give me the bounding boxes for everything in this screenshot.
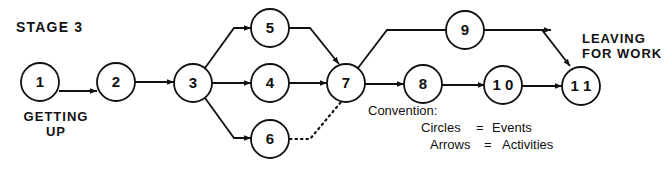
- node-10-label: 1 0: [493, 76, 514, 93]
- edge-6-7-dummy: [290, 102, 341, 139]
- node-5: 5: [251, 9, 289, 47]
- node-4-label: 4: [266, 74, 275, 91]
- node-4: 4: [251, 64, 289, 102]
- end-label-line2: FOR WORK: [582, 46, 662, 61]
- node-11: 1 1: [562, 67, 600, 105]
- convention-row-circles-right: Events: [492, 120, 532, 135]
- node-3: 3: [174, 64, 212, 102]
- node-1-label: 1: [36, 73, 44, 90]
- node-8-label: 8: [419, 75, 427, 92]
- edge-3-6: [205, 98, 251, 138]
- start-label-line2: UP: [46, 124, 66, 139]
- convention-row-circles-eq: =: [476, 120, 484, 135]
- node-10: 1 0: [484, 66, 522, 104]
- edge-9-11: [484, 30, 570, 66]
- stage-title: STAGE 3: [16, 19, 83, 35]
- convention-row-arrows-right: Activities: [502, 137, 554, 152]
- node-6: 6: [251, 120, 289, 158]
- network-diagram: STAGE 3 1 2 3: [0, 0, 668, 169]
- edge-5-7: [289, 28, 339, 64]
- node-2: 2: [97, 63, 135, 101]
- start-label-line1: GETTING: [24, 109, 89, 124]
- edge-3-5: [205, 28, 251, 68]
- node-7: 7: [327, 64, 365, 102]
- convention-row-arrows-left: Arrows: [430, 137, 471, 152]
- node-3-label: 3: [189, 74, 197, 91]
- convention-row-arrows-eq: =: [484, 137, 492, 152]
- convention-heading: Convention:: [368, 103, 437, 118]
- convention-legend: Convention: Circles = Events Arrows = Ac…: [368, 103, 554, 152]
- node-9: 9: [446, 11, 484, 49]
- node-11-label: 1 1: [571, 77, 592, 94]
- node-5-label: 5: [266, 19, 274, 36]
- node-8: 8: [404, 65, 442, 103]
- end-label-line1: LEAVING: [582, 31, 646, 46]
- convention-row-circles-left: Circles: [421, 120, 461, 135]
- node-9-label: 9: [461, 21, 469, 38]
- node-2-label: 2: [112, 73, 120, 90]
- node-7-label: 7: [342, 74, 350, 91]
- node-1: 1: [21, 63, 59, 101]
- node-6-label: 6: [266, 130, 274, 147]
